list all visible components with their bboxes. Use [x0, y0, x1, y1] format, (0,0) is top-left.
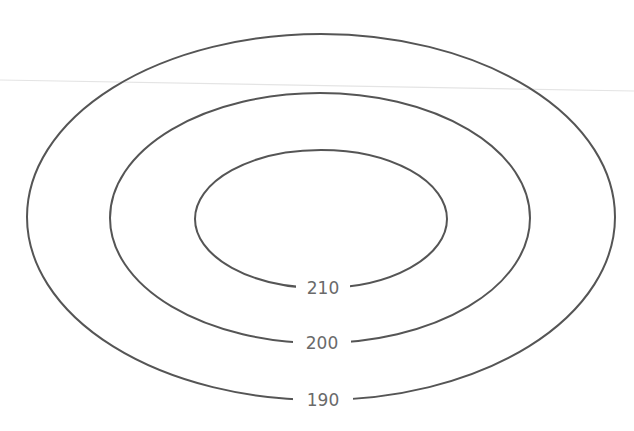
contour-210: 210	[195, 150, 447, 298]
contour-label: 210	[307, 278, 339, 298]
contour-line	[195, 150, 447, 288]
contour-190: 190	[27, 34, 615, 410]
contour-200: 200	[110, 93, 530, 353]
contour-diagram: 190200210	[0, 0, 634, 431]
contour-label: 200	[306, 333, 338, 353]
faint-guide-line	[0, 80, 634, 91]
contour-label: 190	[307, 390, 339, 410]
contour-line	[110, 93, 530, 343]
